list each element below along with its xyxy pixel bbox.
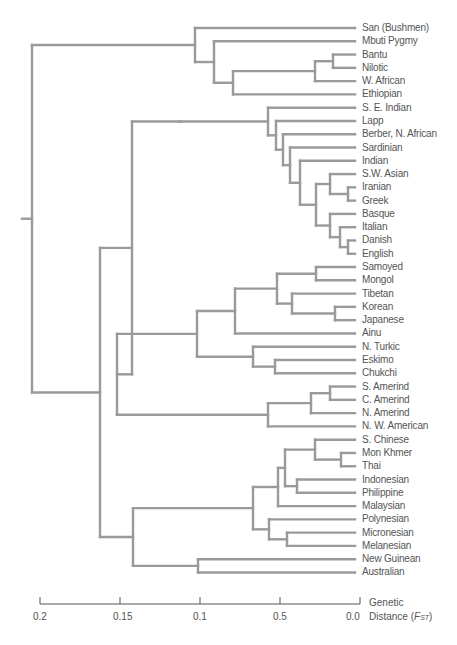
leaf-label: Danish (362, 234, 392, 246)
leaf-label: S. E. Indian (362, 102, 411, 114)
leaf-label: English (362, 248, 393, 260)
leaf-label: Thai (362, 460, 381, 472)
leaf-label: Ethiopian (362, 88, 402, 100)
leaf-label: Sardinian (362, 142, 402, 154)
leaf-label: Micronesian (362, 527, 414, 539)
axis-tick-label: 0.0 (346, 611, 360, 622)
leaf-label: Tibetan (362, 288, 394, 300)
axis-title-line1: Genetic (369, 597, 403, 608)
leaf-label: Samoyed (362, 261, 403, 273)
leaf-label: W. African (362, 75, 405, 87)
leaf-label: C. Amerind (362, 394, 409, 406)
leaf-label: Mon Khmer (362, 447, 412, 459)
leaf-label: S. Chinese (362, 434, 409, 446)
leaf-label: Indonesian (362, 474, 409, 486)
leaf-label: Eskimo (362, 354, 394, 366)
leaf-label: N. Turkic (362, 341, 400, 353)
leaf-label: Greek (362, 195, 388, 207)
leaf-label: Iranian (362, 181, 391, 193)
leaf-label: Chukchi (362, 367, 397, 379)
leaf-label: Berber, N. African (362, 128, 437, 140)
axis-title-line2: Distance (FST) (369, 611, 432, 622)
leaf-label: Mbuti Pygmy (362, 35, 418, 47)
leaf-label: S. Amerind (362, 381, 409, 393)
leaf-label: Lapp (362, 115, 383, 127)
leaf-label: Mongol (362, 274, 394, 286)
leaf-label: Australian (362, 566, 404, 578)
axis-tick-label: 0.15 (113, 611, 132, 622)
axis-tick-label: 0.2 (33, 611, 47, 622)
leaf-label: N. Amerind (362, 407, 409, 419)
leaf-label: S.W. Asian (362, 168, 408, 180)
leaf-label: Nilotic (362, 62, 388, 74)
leaf-label: Philippine (362, 487, 403, 499)
leaf-label: San (Bushmen) (362, 22, 429, 34)
leaf-label: Italian (362, 221, 387, 233)
leaf-label: Malaysian (362, 500, 405, 512)
leaf-label: Japanese (362, 314, 404, 326)
leaf-label: N. W. American (362, 420, 428, 432)
axis-tick-label: 0.1 (193, 611, 207, 622)
leaf-label: Korean (362, 301, 393, 313)
leaf-label: Ainu (362, 327, 381, 339)
leaf-label: Bantu (362, 49, 387, 61)
leaf-label: New Guinean (362, 553, 420, 565)
leaf-label: Basque (362, 208, 395, 220)
axis-tick-label: 0.5 (273, 611, 287, 622)
leaf-label: Melanesian (362, 540, 411, 552)
leaf-label: Indian (362, 155, 388, 167)
leaf-label: Polynesian (362, 513, 409, 525)
